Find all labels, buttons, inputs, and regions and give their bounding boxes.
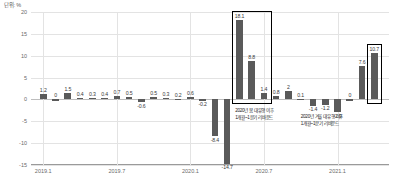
bar-value-label: 0.4 bbox=[77, 91, 84, 97]
bar-value-label: 2 bbox=[287, 84, 290, 90]
y-axis-tick-label: 10 bbox=[21, 53, 27, 59]
bar bbox=[77, 98, 84, 100]
x-axis-tick-label: 2019.1 bbox=[35, 168, 52, 174]
x-axis-tick-label: 2020.1 bbox=[182, 168, 199, 174]
bar-value-label: 10.7 bbox=[370, 46, 380, 52]
x-gridline bbox=[338, 12, 339, 165]
bar bbox=[187, 97, 194, 100]
bar bbox=[150, 97, 157, 99]
y-axis-tick-label: -15 bbox=[19, 162, 27, 168]
bar bbox=[52, 99, 59, 100]
bar-value-label: 7.6 bbox=[359, 59, 366, 65]
bar bbox=[224, 99, 231, 163]
bar bbox=[334, 99, 341, 112]
bar-value-label: 1.5 bbox=[64, 86, 71, 92]
bar bbox=[126, 97, 133, 99]
bar-value-label: 8.8 bbox=[248, 54, 255, 60]
bar bbox=[163, 98, 170, 99]
annotation-winter-rebound: 2020년 겨울 대유행 이후1개월~1분기 리바운드 bbox=[301, 114, 343, 126]
bar-chart: 단위: % 20151050-5-10-152019.12019.72020.1… bbox=[0, 0, 396, 186]
bar-value-label: -0.6 bbox=[137, 103, 145, 109]
x-axis-tick-label: 2019.7 bbox=[108, 168, 125, 174]
annotation-line: 1개월~1분기 리바운드 bbox=[235, 115, 274, 121]
bar-value-label: 0.5 bbox=[126, 90, 133, 96]
bar bbox=[248, 61, 255, 99]
y-axis-tick-label: 5 bbox=[24, 75, 27, 81]
annotation-spring-rebound: 2020년 봄 대유행 이후1개월~1분기 리바운드 bbox=[235, 108, 274, 120]
bar bbox=[359, 66, 366, 99]
plot-area: 20151050-5-10-152019.12019.72020.12020.7… bbox=[31, 12, 389, 165]
bar-value-label: 0 bbox=[348, 92, 351, 98]
bar-value-label: -8.4 bbox=[211, 137, 219, 143]
gridline bbox=[31, 12, 389, 13]
bar bbox=[212, 99, 219, 136]
x-axis-tick-label: 2021.1 bbox=[329, 168, 346, 174]
y-axis-tick-label: 15 bbox=[21, 31, 27, 37]
bar-value-label: 0.4 bbox=[101, 91, 108, 97]
annotation-line: 2020년 봄 대유행 이후 bbox=[235, 108, 274, 114]
bar-value-label: 0.2 bbox=[175, 92, 182, 98]
x-axis-tick-label: 2020.7 bbox=[256, 168, 273, 174]
gridline bbox=[31, 34, 389, 35]
gridline bbox=[31, 165, 389, 166]
y-axis-tick-label: 0 bbox=[24, 96, 27, 102]
bar bbox=[322, 99, 329, 104]
bar-value-label: 0.3 bbox=[162, 91, 169, 97]
bar-value-label: 0 bbox=[54, 92, 57, 98]
bar bbox=[114, 96, 121, 99]
bar bbox=[64, 93, 71, 100]
bar bbox=[40, 94, 47, 99]
bar-value-label: 0.8 bbox=[273, 89, 280, 95]
y-axis-tick-label: -10 bbox=[19, 140, 27, 146]
bar-value-label: -0.2 bbox=[198, 101, 206, 107]
axis-unit-label: 단위: % bbox=[4, 1, 21, 9]
x-gridline bbox=[190, 12, 191, 165]
bar-value-label: -14.7 bbox=[222, 164, 233, 170]
gridline bbox=[31, 56, 389, 57]
y-axis-tick-label: 20 bbox=[21, 9, 27, 15]
bar bbox=[346, 99, 353, 100]
annotation-line: 2020년 겨울 대유행 이후 bbox=[301, 114, 343, 120]
bar bbox=[261, 93, 268, 99]
bar-value-label: 0.3 bbox=[89, 91, 96, 97]
bar bbox=[297, 99, 304, 100]
bar bbox=[89, 98, 96, 99]
bar-value-label: -1.4 bbox=[309, 106, 317, 112]
gridline bbox=[31, 143, 389, 144]
bar-value-label: 0.6 bbox=[187, 90, 194, 96]
bar-value-label: 18.1 bbox=[235, 13, 245, 19]
annotation-line: 1개월~1분기 리바운드 bbox=[301, 121, 343, 127]
bar bbox=[285, 91, 292, 100]
bar bbox=[371, 53, 378, 100]
bar bbox=[273, 96, 280, 99]
bar-value-label: 1.2 bbox=[40, 87, 47, 93]
bar bbox=[175, 99, 182, 100]
y-axis-tick-label: -5 bbox=[22, 118, 27, 124]
bar-value-label: 0.5 bbox=[150, 90, 157, 96]
bar bbox=[310, 99, 317, 105]
bar-value-label: 1.4 bbox=[261, 86, 268, 92]
bar-value-label: 0.1 bbox=[297, 92, 304, 98]
bar-value-label: 0.7 bbox=[113, 89, 120, 95]
bar-value-label: -1.2 bbox=[321, 105, 329, 111]
bar bbox=[101, 98, 108, 100]
gridline bbox=[31, 78, 389, 79]
bar bbox=[236, 20, 243, 99]
